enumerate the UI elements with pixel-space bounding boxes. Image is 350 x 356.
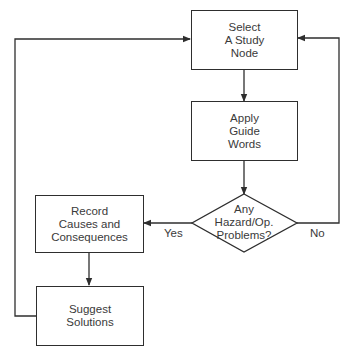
node-label-line: Hazard/Op. [200, 216, 288, 229]
edge-label-no: No [310, 227, 325, 239]
node-label-line: Guide [228, 125, 261, 138]
edge-label-yes: Yes [164, 227, 183, 239]
node-label-line: Words [228, 138, 261, 151]
node-label-line: A Study [225, 34, 265, 47]
node-record-causes: Record Causes and Consequences [35, 195, 144, 253]
arrow-no-to-select [297, 38, 339, 223]
node-select-study-node: Select A Study Node [191, 10, 298, 70]
node-label-line: Apply [228, 112, 261, 125]
node-decision-hazard: Any Hazard/Op. Problems? [200, 203, 288, 242]
node-label-line: Node [225, 47, 265, 60]
node-apply-guide-words: Apply Guide Words [191, 101, 298, 161]
node-label-line: Select [225, 21, 265, 34]
node-label-line: Record [51, 205, 128, 218]
node-suggest-solutions: Suggest Solutions [36, 286, 144, 346]
node-label-line: Suggest [66, 303, 113, 316]
node-label-line: Solutions [66, 316, 113, 329]
node-label-line: Any [234, 203, 254, 215]
node-label-line: Problems? [200, 229, 288, 242]
node-label-line: Causes and [51, 218, 128, 231]
node-label-line: Consequences [51, 231, 128, 244]
arrow-suggest-to-select [15, 39, 190, 316]
